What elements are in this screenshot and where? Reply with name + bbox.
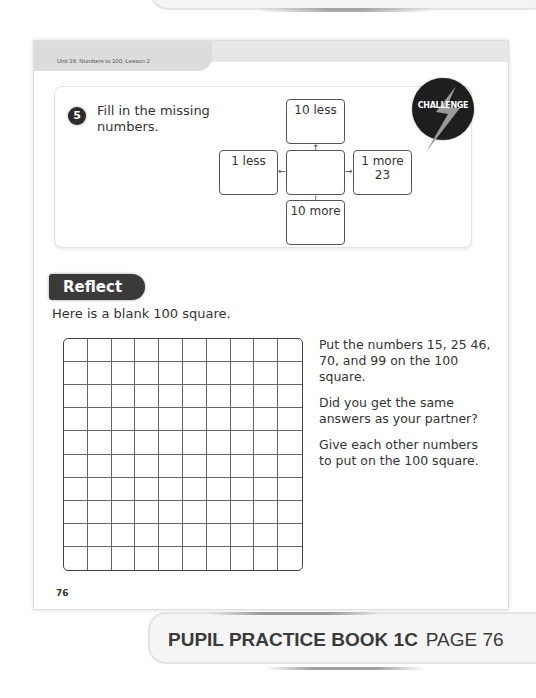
grid-cell[interactable] — [88, 547, 112, 570]
grid-cell[interactable] — [159, 385, 183, 408]
grid-cell[interactable] — [278, 408, 302, 431]
grid-cell[interactable] — [231, 385, 255, 408]
grid-cell[interactable] — [278, 385, 302, 408]
grid-cell[interactable] — [207, 501, 231, 524]
grid-cell[interactable] — [64, 339, 88, 362]
grid-cell[interactable] — [207, 547, 231, 570]
grid-cell[interactable] — [207, 478, 231, 501]
grid-cell[interactable] — [183, 455, 207, 478]
grid-cell[interactable] — [183, 501, 207, 524]
grid-cell[interactable] — [254, 547, 278, 570]
grid-cell[interactable] — [159, 547, 183, 570]
grid-cell[interactable] — [88, 524, 112, 547]
grid-cell[interactable] — [64, 408, 88, 431]
grid-cell[interactable] — [254, 455, 278, 478]
grid-cell[interactable] — [278, 547, 302, 570]
grid-cell[interactable] — [159, 362, 183, 385]
grid-cell[interactable] — [112, 547, 136, 570]
grid-cell[interactable] — [135, 501, 159, 524]
grid-cell[interactable] — [88, 455, 112, 478]
grid-cell[interactable] — [88, 339, 112, 362]
grid-cell[interactable] — [135, 339, 159, 362]
grid-cell[interactable] — [231, 524, 255, 547]
grid-cell[interactable] — [135, 408, 159, 431]
grid-cell[interactable] — [254, 431, 278, 454]
grid-cell[interactable] — [231, 478, 255, 501]
grid-cell[interactable] — [88, 501, 112, 524]
grid-cell[interactable] — [254, 524, 278, 547]
grid-cell[interactable] — [278, 339, 302, 362]
grid-cell[interactable] — [88, 385, 112, 408]
grid-cell[interactable] — [231, 501, 255, 524]
grid-cell[interactable] — [64, 385, 88, 408]
grid-cell[interactable] — [254, 501, 278, 524]
grid-cell[interactable] — [159, 339, 183, 362]
hundred-square-grid[interactable] — [63, 338, 303, 571]
grid-cell[interactable] — [135, 524, 159, 547]
grid-cell[interactable] — [278, 501, 302, 524]
grid-cell[interactable] — [183, 385, 207, 408]
grid-cell[interactable] — [207, 385, 231, 408]
grid-cell[interactable] — [231, 455, 255, 478]
grid-cell[interactable] — [278, 431, 302, 454]
grid-cell[interactable] — [278, 362, 302, 385]
grid-cell[interactable] — [64, 362, 88, 385]
grid-cell[interactable] — [254, 385, 278, 408]
grid-cell[interactable] — [64, 455, 88, 478]
grid-cell[interactable] — [112, 524, 136, 547]
grid-cell[interactable] — [254, 339, 278, 362]
grid-cell[interactable] — [112, 501, 136, 524]
grid-cell[interactable] — [159, 524, 183, 547]
grid-cell[interactable] — [159, 455, 183, 478]
grid-cell[interactable] — [135, 547, 159, 570]
grid-cell[interactable] — [231, 362, 255, 385]
grid-cell[interactable] — [64, 524, 88, 547]
grid-cell[interactable] — [183, 547, 207, 570]
box-10-less[interactable]: 10 less — [286, 99, 345, 144]
box-1-less[interactable]: 1 less — [219, 150, 278, 195]
grid-cell[interactable] — [64, 478, 88, 501]
grid-cell[interactable] — [207, 408, 231, 431]
grid-cell[interactable] — [88, 478, 112, 501]
grid-cell[interactable] — [207, 431, 231, 454]
grid-cell[interactable] — [183, 524, 207, 547]
grid-cell[interactable] — [183, 408, 207, 431]
grid-cell[interactable] — [112, 455, 136, 478]
box-center[interactable] — [286, 150, 345, 195]
grid-cell[interactable] — [135, 455, 159, 478]
grid-cell[interactable] — [135, 362, 159, 385]
grid-cell[interactable] — [207, 455, 231, 478]
grid-cell[interactable] — [183, 362, 207, 385]
grid-cell[interactable] — [159, 431, 183, 454]
grid-cell[interactable] — [88, 408, 112, 431]
grid-cell[interactable] — [183, 431, 207, 454]
grid-cell[interactable] — [64, 501, 88, 524]
grid-cell[interactable] — [135, 385, 159, 408]
grid-cell[interactable] — [159, 501, 183, 524]
grid-cell[interactable] — [254, 362, 278, 385]
grid-cell[interactable] — [112, 385, 136, 408]
grid-cell[interactable] — [254, 408, 278, 431]
grid-cell[interactable] — [183, 478, 207, 501]
grid-cell[interactable] — [88, 362, 112, 385]
grid-cell[interactable] — [231, 431, 255, 454]
grid-cell[interactable] — [159, 478, 183, 501]
grid-cell[interactable] — [88, 431, 112, 454]
grid-cell[interactable] — [112, 478, 136, 501]
grid-cell[interactable] — [207, 339, 231, 362]
grid-cell[interactable] — [112, 408, 136, 431]
grid-cell[interactable] — [135, 431, 159, 454]
grid-cell[interactable] — [254, 478, 278, 501]
grid-cell[interactable] — [278, 478, 302, 501]
grid-cell[interactable] — [207, 524, 231, 547]
grid-cell[interactable] — [135, 478, 159, 501]
grid-cell[interactable] — [278, 524, 302, 547]
grid-cell[interactable] — [112, 431, 136, 454]
grid-cell[interactable] — [231, 339, 255, 362]
grid-cell[interactable] — [183, 339, 207, 362]
grid-cell[interactable] — [207, 362, 231, 385]
grid-cell[interactable] — [278, 455, 302, 478]
grid-cell[interactable] — [231, 547, 255, 570]
grid-cell[interactable] — [159, 408, 183, 431]
grid-cell[interactable] — [112, 362, 136, 385]
